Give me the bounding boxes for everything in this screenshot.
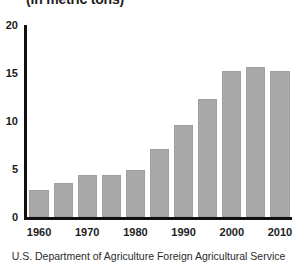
- bar: [29, 190, 48, 217]
- y-tick-label: 5: [12, 163, 18, 175]
- x-tick-label: 1990: [171, 226, 195, 238]
- y-tick-label: 0: [12, 211, 18, 223]
- x-tick-label: 2000: [220, 226, 244, 238]
- bar: [174, 125, 193, 217]
- bar-series: [27, 25, 292, 217]
- bar: [102, 175, 121, 217]
- bar: [78, 175, 97, 217]
- x-tick-label: 1960: [27, 226, 51, 238]
- plot-area: 05101520: [24, 25, 292, 222]
- bar-chart-figure: (in metric tons) 05101520 19601970198019…: [0, 0, 297, 269]
- y-tick-label: 15: [6, 67, 18, 79]
- chart-title: (in metric tons): [0, 0, 150, 7]
- bar: [150, 149, 169, 217]
- x-axis-line: [24, 217, 292, 220]
- bar: [270, 71, 289, 217]
- bar: [198, 99, 217, 217]
- x-axis-tick-labels: 196019701980199020002010: [24, 226, 295, 242]
- bar: [222, 71, 241, 217]
- x-tick-label: 2010: [268, 226, 292, 238]
- bar: [126, 170, 145, 217]
- x-tick-label: 1980: [123, 226, 147, 238]
- bar: [246, 67, 265, 217]
- y-tick-label: 20: [6, 19, 18, 31]
- source-caption: U.S. Department of Agriculture Foreign A…: [0, 250, 297, 262]
- y-tick-label: 10: [6, 115, 18, 127]
- bar: [54, 183, 73, 217]
- x-tick-label: 1970: [75, 226, 99, 238]
